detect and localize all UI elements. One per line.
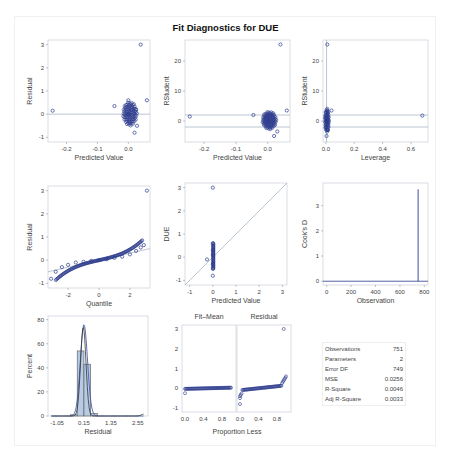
svg-text:1: 1	[175, 366, 179, 372]
svg-text:Fit–Mean: Fit–Mean	[194, 313, 223, 320]
y-axis-label: Residual	[26, 77, 33, 105]
y-tick-label: 40	[37, 365, 44, 371]
stat-value: 749	[393, 364, 403, 374]
stat-row: Parameters2	[325, 354, 403, 364]
stat-row: MSE0.0256	[325, 374, 403, 384]
y-tick-label: 0	[178, 254, 182, 260]
svg-text:200: 200	[346, 289, 357, 295]
svg-text:3: 3	[281, 289, 285, 295]
svg-text:2: 2	[175, 346, 179, 352]
svg-text:-1: -1	[173, 405, 179, 411]
svg-text:600: 600	[395, 289, 406, 295]
y-tick-label: 3	[316, 203, 320, 209]
y-tick-label: 2	[41, 65, 45, 71]
svg-text:0.15: 0.15	[78, 420, 90, 426]
y-axis-label: RStudent	[301, 76, 308, 105]
y-tick-label: 20	[174, 58, 181, 64]
y-tick-label: -1	[176, 277, 182, 283]
y-tick-label: 1	[178, 231, 182, 237]
stat-label: MSE	[325, 374, 338, 384]
svg-text:0.4: 0.4	[199, 416, 208, 422]
y-tick-label: 60	[37, 341, 44, 347]
stat-value: 2	[400, 354, 403, 364]
y-tick-label: 3	[41, 188, 45, 194]
svg-text:0.4: 0.4	[254, 416, 263, 422]
svg-text:0.6: 0.6	[407, 146, 416, 152]
y-axis-label: Residual	[26, 223, 33, 251]
chart-panel-3	[46, 186, 150, 290]
svg-text:0: 0	[211, 289, 215, 295]
y-tick-label: 0	[316, 118, 320, 124]
svg-text:400: 400	[370, 289, 381, 295]
svg-text:2: 2	[128, 292, 132, 298]
y-tick-label: 10	[312, 88, 319, 94]
svg-text:0.4: 0.4	[378, 146, 387, 152]
x-axis-label: Predicted Value	[75, 154, 124, 161]
y-axis-label: Percent	[26, 354, 33, 378]
y-tick-label: 1	[316, 253, 320, 259]
chart-panel-1	[183, 40, 290, 144]
stat-value: 0.0046	[385, 384, 403, 394]
y-tick-label: 1	[41, 234, 45, 240]
y-tick-label: 0	[41, 111, 45, 117]
svg-text:0.0: 0.0	[264, 146, 273, 152]
svg-text:1: 1	[234, 289, 238, 295]
stat-label: Parameters	[325, 354, 356, 364]
stat-label: Observations	[325, 344, 360, 354]
x-axis-label: Predicted Value	[213, 154, 262, 161]
y-axis-label: RStudent	[163, 76, 170, 105]
svg-text:-0.2: -0.2	[199, 146, 210, 152]
stat-value: 0.0033	[385, 394, 403, 404]
svg-text:0.8: 0.8	[218, 416, 227, 422]
y-axis-label: DUE	[163, 226, 170, 241]
stat-label: Adj R-Square	[325, 394, 361, 404]
y-tick-label: 2	[178, 208, 182, 214]
svg-text:0.2: 0.2	[350, 146, 359, 152]
chart-panel-5	[321, 183, 428, 287]
x-axis-label: Leverage	[361, 154, 390, 162]
y-tick-label: 3	[178, 185, 182, 191]
y-tick-label: -1	[39, 134, 45, 140]
y-tick-label: 20	[312, 58, 319, 64]
y-tick-label: 0	[41, 413, 45, 419]
stat-value: 0.0256	[385, 374, 403, 384]
x-axis-label: Observation	[357, 297, 395, 304]
chart-panel-7	[182, 325, 291, 412]
svg-text:0: 0	[175, 385, 179, 391]
svg-text:0.8: 0.8	[273, 416, 282, 422]
y-tick-label: -1	[39, 280, 45, 286]
chart-panel-0	[46, 40, 150, 144]
x-axis-label: Predicted Value	[212, 297, 261, 304]
x-axis-label: Quantile	[86, 300, 112, 308]
stat-row: Observations751	[325, 344, 403, 354]
y-tick-label: 80	[37, 317, 44, 323]
x-axis-label: Residual	[84, 428, 112, 435]
stat-label: Error DF	[325, 364, 348, 374]
svg-text:2: 2	[258, 289, 262, 295]
svg-text:0.0: 0.0	[181, 416, 190, 422]
fit-statistics-table: Observations751Parameters2Error DF749MSE…	[322, 342, 406, 406]
svg-text:1.35: 1.35	[105, 420, 117, 426]
svg-text:0.0: 0.0	[322, 146, 331, 152]
chart-panel-4	[183, 183, 287, 287]
svg-text:-0.2: -0.2	[61, 146, 72, 152]
chart-panel-2	[321, 40, 428, 144]
stat-row: Adj R-Square0.0033	[325, 394, 403, 404]
svg-text:0.0: 0.0	[124, 146, 133, 152]
svg-text:Residual: Residual	[250, 313, 278, 320]
stat-row: R-Square0.0046	[325, 384, 403, 394]
svg-text:-1: -1	[187, 289, 193, 295]
svg-text:3: 3	[175, 326, 179, 332]
chart-panel-6	[46, 316, 148, 416]
svg-text:-2: -2	[65, 292, 71, 298]
y-tick-label: 10	[174, 88, 181, 94]
y-tick-label: 0	[178, 118, 182, 124]
y-tick-label: 0	[316, 278, 320, 284]
svg-text:0: 0	[97, 292, 101, 298]
y-tick-label: 2	[41, 211, 45, 217]
y-tick-label: 1	[41, 88, 45, 94]
svg-text:0.0: 0.0	[236, 416, 245, 422]
svg-text:2.55: 2.55	[132, 420, 144, 426]
y-tick-label: 3	[41, 42, 45, 48]
y-tick-label: 20	[37, 389, 44, 395]
